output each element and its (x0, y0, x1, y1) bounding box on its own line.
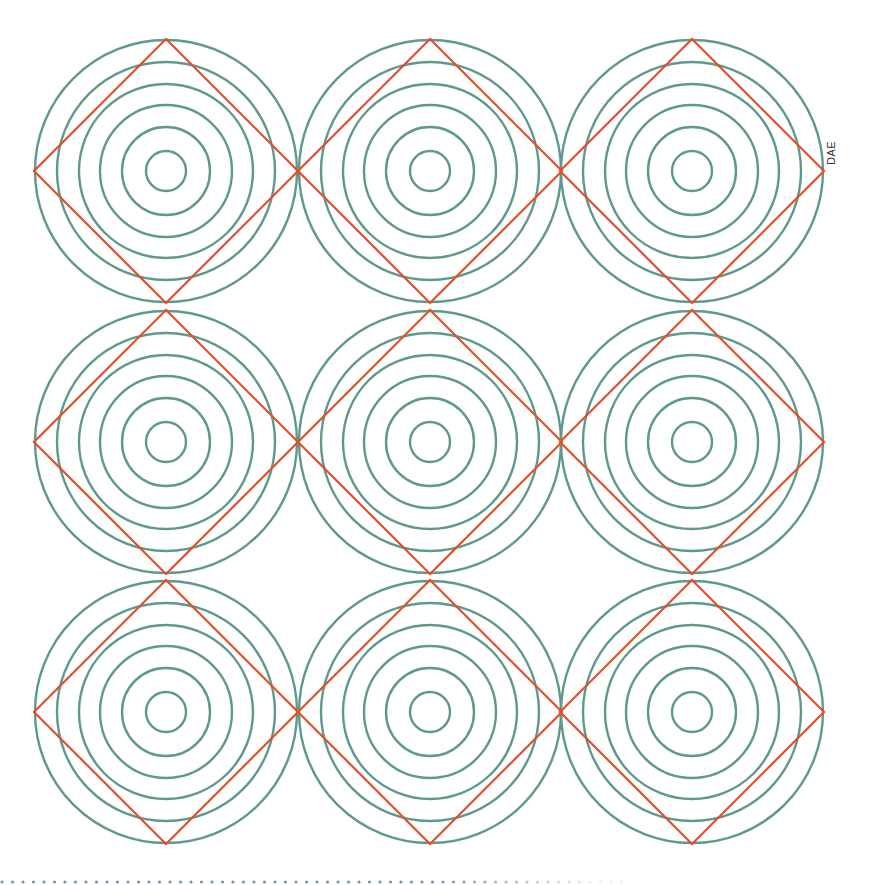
ring (410, 422, 450, 462)
ring (79, 625, 253, 799)
ring (100, 376, 232, 508)
ring (605, 625, 779, 799)
dot (200, 880, 203, 883)
ring (79, 84, 253, 258)
dot (0, 880, 3, 883)
ring (35, 311, 297, 573)
ring (410, 692, 450, 732)
ring (299, 40, 561, 302)
ring (343, 625, 517, 799)
ring (364, 646, 496, 778)
ring (648, 668, 736, 756)
dot (462, 880, 465, 883)
diamond-grid-group (34, 39, 824, 844)
ring (57, 603, 275, 821)
dot (515, 880, 518, 883)
dot (378, 880, 381, 883)
concentric-rings-group (35, 40, 823, 843)
ring (122, 668, 210, 756)
dot (420, 880, 423, 883)
figure-label: DAE (825, 141, 837, 165)
ring (146, 151, 186, 191)
dot (326, 880, 329, 883)
ring (672, 151, 712, 191)
dot (357, 880, 360, 883)
dot (221, 880, 224, 883)
dot (95, 880, 98, 883)
dot (578, 880, 581, 883)
ring (583, 62, 801, 280)
dot (231, 880, 234, 883)
dot (53, 880, 56, 883)
dot (32, 880, 35, 883)
dot (116, 880, 119, 883)
ring-cluster (561, 581, 823, 843)
dot (452, 880, 455, 883)
ring (100, 646, 232, 778)
ring (648, 127, 736, 215)
ring (672, 422, 712, 462)
dot (126, 880, 129, 883)
dot (284, 880, 287, 883)
ring (122, 127, 210, 215)
dot (242, 880, 245, 883)
ring (146, 692, 186, 732)
dot (473, 880, 476, 883)
ring-cluster (299, 581, 561, 843)
dot (620, 880, 623, 883)
dot (273, 880, 276, 883)
ring (561, 311, 823, 573)
dot (252, 880, 255, 883)
ring-cluster (299, 311, 561, 573)
ring (57, 62, 275, 280)
dot (389, 880, 392, 883)
dot (399, 880, 402, 883)
ring (605, 355, 779, 529)
dot (74, 880, 77, 883)
ring (672, 692, 712, 732)
dot (536, 880, 539, 883)
dot (189, 880, 192, 883)
ring (35, 581, 297, 843)
ring-cluster (35, 581, 297, 843)
dot (147, 880, 150, 883)
ring (321, 62, 539, 280)
dot (609, 880, 612, 883)
ring (561, 40, 823, 302)
dot (567, 880, 570, 883)
dot (494, 880, 497, 883)
ring (343, 355, 517, 529)
ring (583, 333, 801, 551)
ring (299, 311, 561, 573)
dot (63, 880, 66, 883)
ring-cluster (35, 311, 297, 573)
dotted-rule (0, 880, 623, 883)
ring (561, 581, 823, 843)
ring-cluster (35, 40, 297, 302)
ring (626, 646, 758, 778)
ring (79, 355, 253, 529)
ring (626, 105, 758, 237)
ring (386, 127, 474, 215)
ring (122, 398, 210, 486)
ring (343, 84, 517, 258)
ring (583, 603, 801, 821)
dot (137, 880, 140, 883)
dot (441, 880, 444, 883)
dot (84, 880, 87, 883)
ring (146, 422, 186, 462)
dot (347, 880, 350, 883)
concentric-circle-diamond-pattern (0, 0, 879, 885)
ring-cluster (561, 311, 823, 573)
dot (305, 880, 308, 883)
ring-cluster (299, 40, 561, 302)
dot (179, 880, 182, 883)
ring (321, 333, 539, 551)
dot (336, 880, 339, 883)
dot (504, 880, 507, 883)
dot (315, 880, 318, 883)
dot (410, 880, 413, 883)
ring (386, 668, 474, 756)
ring (626, 376, 758, 508)
dot (294, 880, 297, 883)
